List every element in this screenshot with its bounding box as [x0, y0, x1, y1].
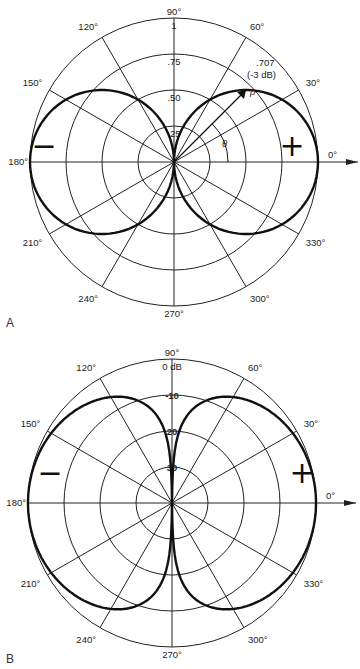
- arrow-icon: [346, 159, 358, 165]
- angle-label: 180°: [6, 497, 26, 508]
- angle-label: 30°: [304, 418, 319, 429]
- angle-label: 60°: [248, 362, 263, 373]
- angle-label: 270°: [162, 649, 182, 660]
- polar-charts: 0°30°60°90°120°150°180°210°240°270°300°3…: [0, 0, 360, 669]
- angle-label: 150°: [21, 418, 41, 429]
- radial-tick-label: 20: [167, 426, 178, 437]
- angle-label: 0°: [328, 149, 337, 160]
- angle-label: 120°: [78, 21, 98, 32]
- radial-tick-label: .50: [167, 92, 180, 103]
- polar-chart-a: 0°30°60°90°120°150°180°210°240°270°300°3…: [8, 6, 358, 319]
- annotation-707: .707: [256, 57, 275, 68]
- panel-label-b: B: [6, 652, 14, 666]
- radial-tick-label: 1: [171, 20, 176, 31]
- plus-sign: +: [289, 455, 314, 490]
- angle-label: 150°: [23, 77, 43, 88]
- angle-label: 180°: [8, 156, 28, 167]
- angle-label: 60°: [250, 21, 265, 32]
- minus-sign: −: [37, 455, 62, 490]
- angle-label: 330°: [304, 578, 324, 589]
- angle-label: 90°: [167, 6, 182, 17]
- angle-label: 210°: [21, 578, 41, 589]
- radial-tick-label: 0 dB: [162, 361, 182, 372]
- angle-label: 330°: [306, 237, 326, 248]
- angle-label: 300°: [250, 293, 270, 304]
- radial-tick-label: -10: [165, 390, 179, 401]
- angle-label: 90°: [165, 347, 180, 358]
- arrow-icon: [344, 500, 356, 506]
- angle-label: 0°: [326, 490, 335, 501]
- angle-label: 210°: [23, 237, 43, 248]
- polar-chart-b: 0°30°60°90°120°150°180°210°240°270°300°3…: [6, 347, 356, 660]
- minus-sign: −: [31, 128, 56, 163]
- panel-label-a: A: [6, 316, 14, 330]
- angle-label: 300°: [248, 634, 268, 645]
- annotation-minus3db: (-3 dB): [247, 69, 276, 80]
- plus-sign: +: [279, 128, 304, 163]
- angle-label: 240°: [76, 634, 96, 645]
- angle-label: 120°: [76, 362, 96, 373]
- rho-label: ρ: [249, 86, 256, 97]
- angle-label: 30°: [306, 77, 321, 88]
- theta-label: θ: [222, 138, 228, 149]
- radial-tick-label: .75: [167, 56, 180, 67]
- angle-label: 270°: [164, 308, 184, 319]
- angle-label: 240°: [78, 293, 98, 304]
